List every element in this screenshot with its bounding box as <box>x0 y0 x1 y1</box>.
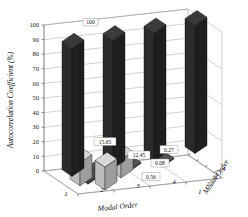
y-tick-100: 100 <box>29 21 39 28</box>
data-label-1245: 12.45 <box>128 151 150 159</box>
bar-x4-z4 <box>185 10 207 153</box>
y-tick-80: 80 <box>33 50 39 57</box>
y-tick-30: 30 <box>33 123 39 130</box>
data-label-1245-text: 12.45 <box>133 152 146 158</box>
data-label-1565-text: 15.65 <box>99 139 112 145</box>
y-tick-90: 90 <box>33 36 39 43</box>
y-tick-60: 60 <box>33 80 39 87</box>
bar-x1-z1 <box>62 33 84 176</box>
y-axis: 0 10 20 30 40 50 60 70 80 90 100 <box>29 21 44 174</box>
data-label-056: 0.56 <box>142 173 160 181</box>
y-axis-title: Autocorrelation Coefficient (%) <box>6 51 15 149</box>
y-tick-0: 0 <box>36 167 39 174</box>
y-tick-40: 40 <box>33 109 39 116</box>
y-tick-10: 10 <box>33 153 39 160</box>
bar-x2-z2 <box>103 26 125 169</box>
data-label-027-text: 0.27 <box>164 147 174 153</box>
y-tick-70: 70 <box>33 65 39 72</box>
bar-x3-z3 <box>144 18 166 161</box>
data-label-100: 100 <box>83 19 98 27</box>
chart-canvas: 0 10 20 30 40 50 60 70 80 90 100 <box>0 0 248 217</box>
data-label-100-text: 100 <box>86 19 95 25</box>
x-axis-title: Modal Order <box>96 200 138 213</box>
data-label-056-text: 0.56 <box>146 174 156 180</box>
data-label-027: 0.27 <box>160 146 178 154</box>
autocorrelation-3d-bar-chart: 0 10 20 30 40 50 60 70 80 90 100 <box>0 0 248 217</box>
x-tick-2: 2 <box>100 186 104 194</box>
x-tick-1: 1 <box>64 190 68 198</box>
y-tick-20: 20 <box>33 138 39 145</box>
y-tick-50: 50 <box>33 94 39 101</box>
x-tick-4: 4 <box>172 178 176 186</box>
data-label-1565: 15.65 <box>94 138 116 146</box>
data-label-008: 0.08 <box>151 159 169 167</box>
x-tick-3: 3 <box>135 182 140 190</box>
data-label-008-text: 0.08 <box>155 160 165 166</box>
